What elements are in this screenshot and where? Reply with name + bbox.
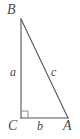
triangle-figure: B C A a b c (0, 0, 80, 139)
right-angle-marker-icon (21, 111, 28, 118)
side-c-line (21, 19, 68, 118)
side-label-c: c (51, 66, 56, 78)
vertex-label-b: B (7, 3, 16, 17)
vertex-label-a: A (63, 119, 72, 133)
side-label-a: a (10, 66, 16, 78)
vertex-label-c: C (8, 119, 17, 133)
side-label-b: b (37, 120, 43, 132)
